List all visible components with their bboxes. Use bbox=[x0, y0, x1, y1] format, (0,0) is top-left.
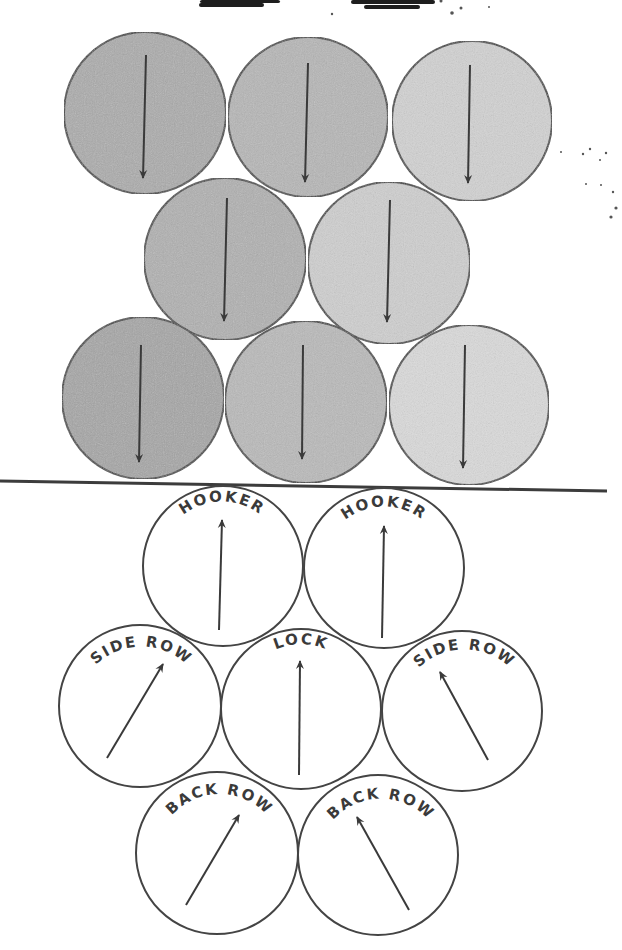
print-speck bbox=[440, 0, 443, 3]
player-lock-l1: LOCK bbox=[221, 629, 381, 789]
player-hooker-h1: HOOKER bbox=[143, 486, 303, 646]
home-pack: HOOKERHOOKERSIDE ROWLOCKSIDE ROWBACK ROW… bbox=[59, 486, 542, 935]
print-smudge bbox=[364, 5, 420, 9]
arrow-down-icon bbox=[302, 345, 303, 459]
print-smudge bbox=[351, 0, 435, 4]
print-smudge bbox=[200, 0, 280, 3]
player-circle bbox=[392, 41, 552, 201]
opposing-player-o8 bbox=[389, 325, 549, 485]
opposing-pack bbox=[62, 32, 552, 485]
player-circle bbox=[225, 321, 387, 483]
player-circle bbox=[228, 37, 388, 197]
print-smudge bbox=[199, 3, 264, 7]
print-speck bbox=[582, 153, 584, 155]
opposing-player-o3 bbox=[392, 41, 552, 201]
player-side-row-s1: SIDE ROW bbox=[59, 625, 221, 787]
diagram-canvas: HOOKERHOOKERSIDE ROWLOCKSIDE ROWBACK ROW… bbox=[0, 0, 622, 950]
print-speck bbox=[605, 152, 607, 154]
opposing-player-o5 bbox=[308, 182, 470, 344]
print-speck bbox=[599, 159, 601, 161]
scrum-diagram: HOOKERHOOKERSIDE ROWLOCKSIDE ROWBACK ROW… bbox=[0, 0, 622, 950]
player-side-row-s2: SIDE ROW bbox=[382, 631, 542, 791]
player-back-row-b2: BACK ROW bbox=[298, 775, 458, 935]
print-speck bbox=[560, 151, 562, 153]
print-speck bbox=[585, 183, 587, 185]
opposing-player-o7 bbox=[225, 321, 387, 483]
print-speck bbox=[600, 184, 602, 186]
print-speck bbox=[450, 11, 454, 15]
player-circle bbox=[221, 629, 381, 789]
opposing-player-o1 bbox=[64, 32, 226, 194]
player-circle bbox=[62, 317, 224, 479]
print-speck bbox=[589, 148, 591, 150]
player-circle bbox=[143, 486, 303, 646]
print-speck bbox=[612, 191, 614, 193]
player-circle bbox=[389, 325, 549, 485]
print-speck bbox=[614, 206, 617, 209]
player-hooker-h2: HOOKER bbox=[304, 488, 464, 648]
opposing-player-o2 bbox=[228, 37, 388, 197]
print-speck bbox=[488, 6, 490, 8]
player-back-row-b1: BACK ROW bbox=[136, 772, 298, 934]
print-speck bbox=[609, 215, 612, 218]
print-speck bbox=[460, 7, 463, 10]
opposing-player-o4 bbox=[144, 178, 306, 340]
push-direction-arrow-icon bbox=[299, 661, 300, 775]
opposing-player-o6 bbox=[62, 317, 224, 479]
print-speck bbox=[331, 13, 333, 15]
